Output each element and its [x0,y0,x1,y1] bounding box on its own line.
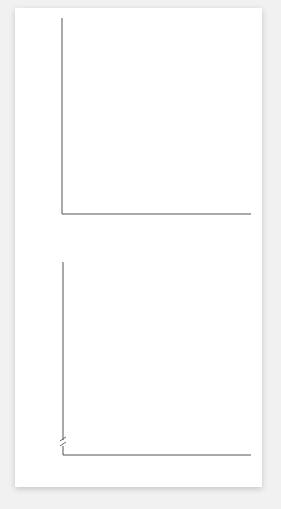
marginal-product-chart [60,262,251,455]
charts-svg [0,0,281,509]
total-product-chart [62,18,251,214]
